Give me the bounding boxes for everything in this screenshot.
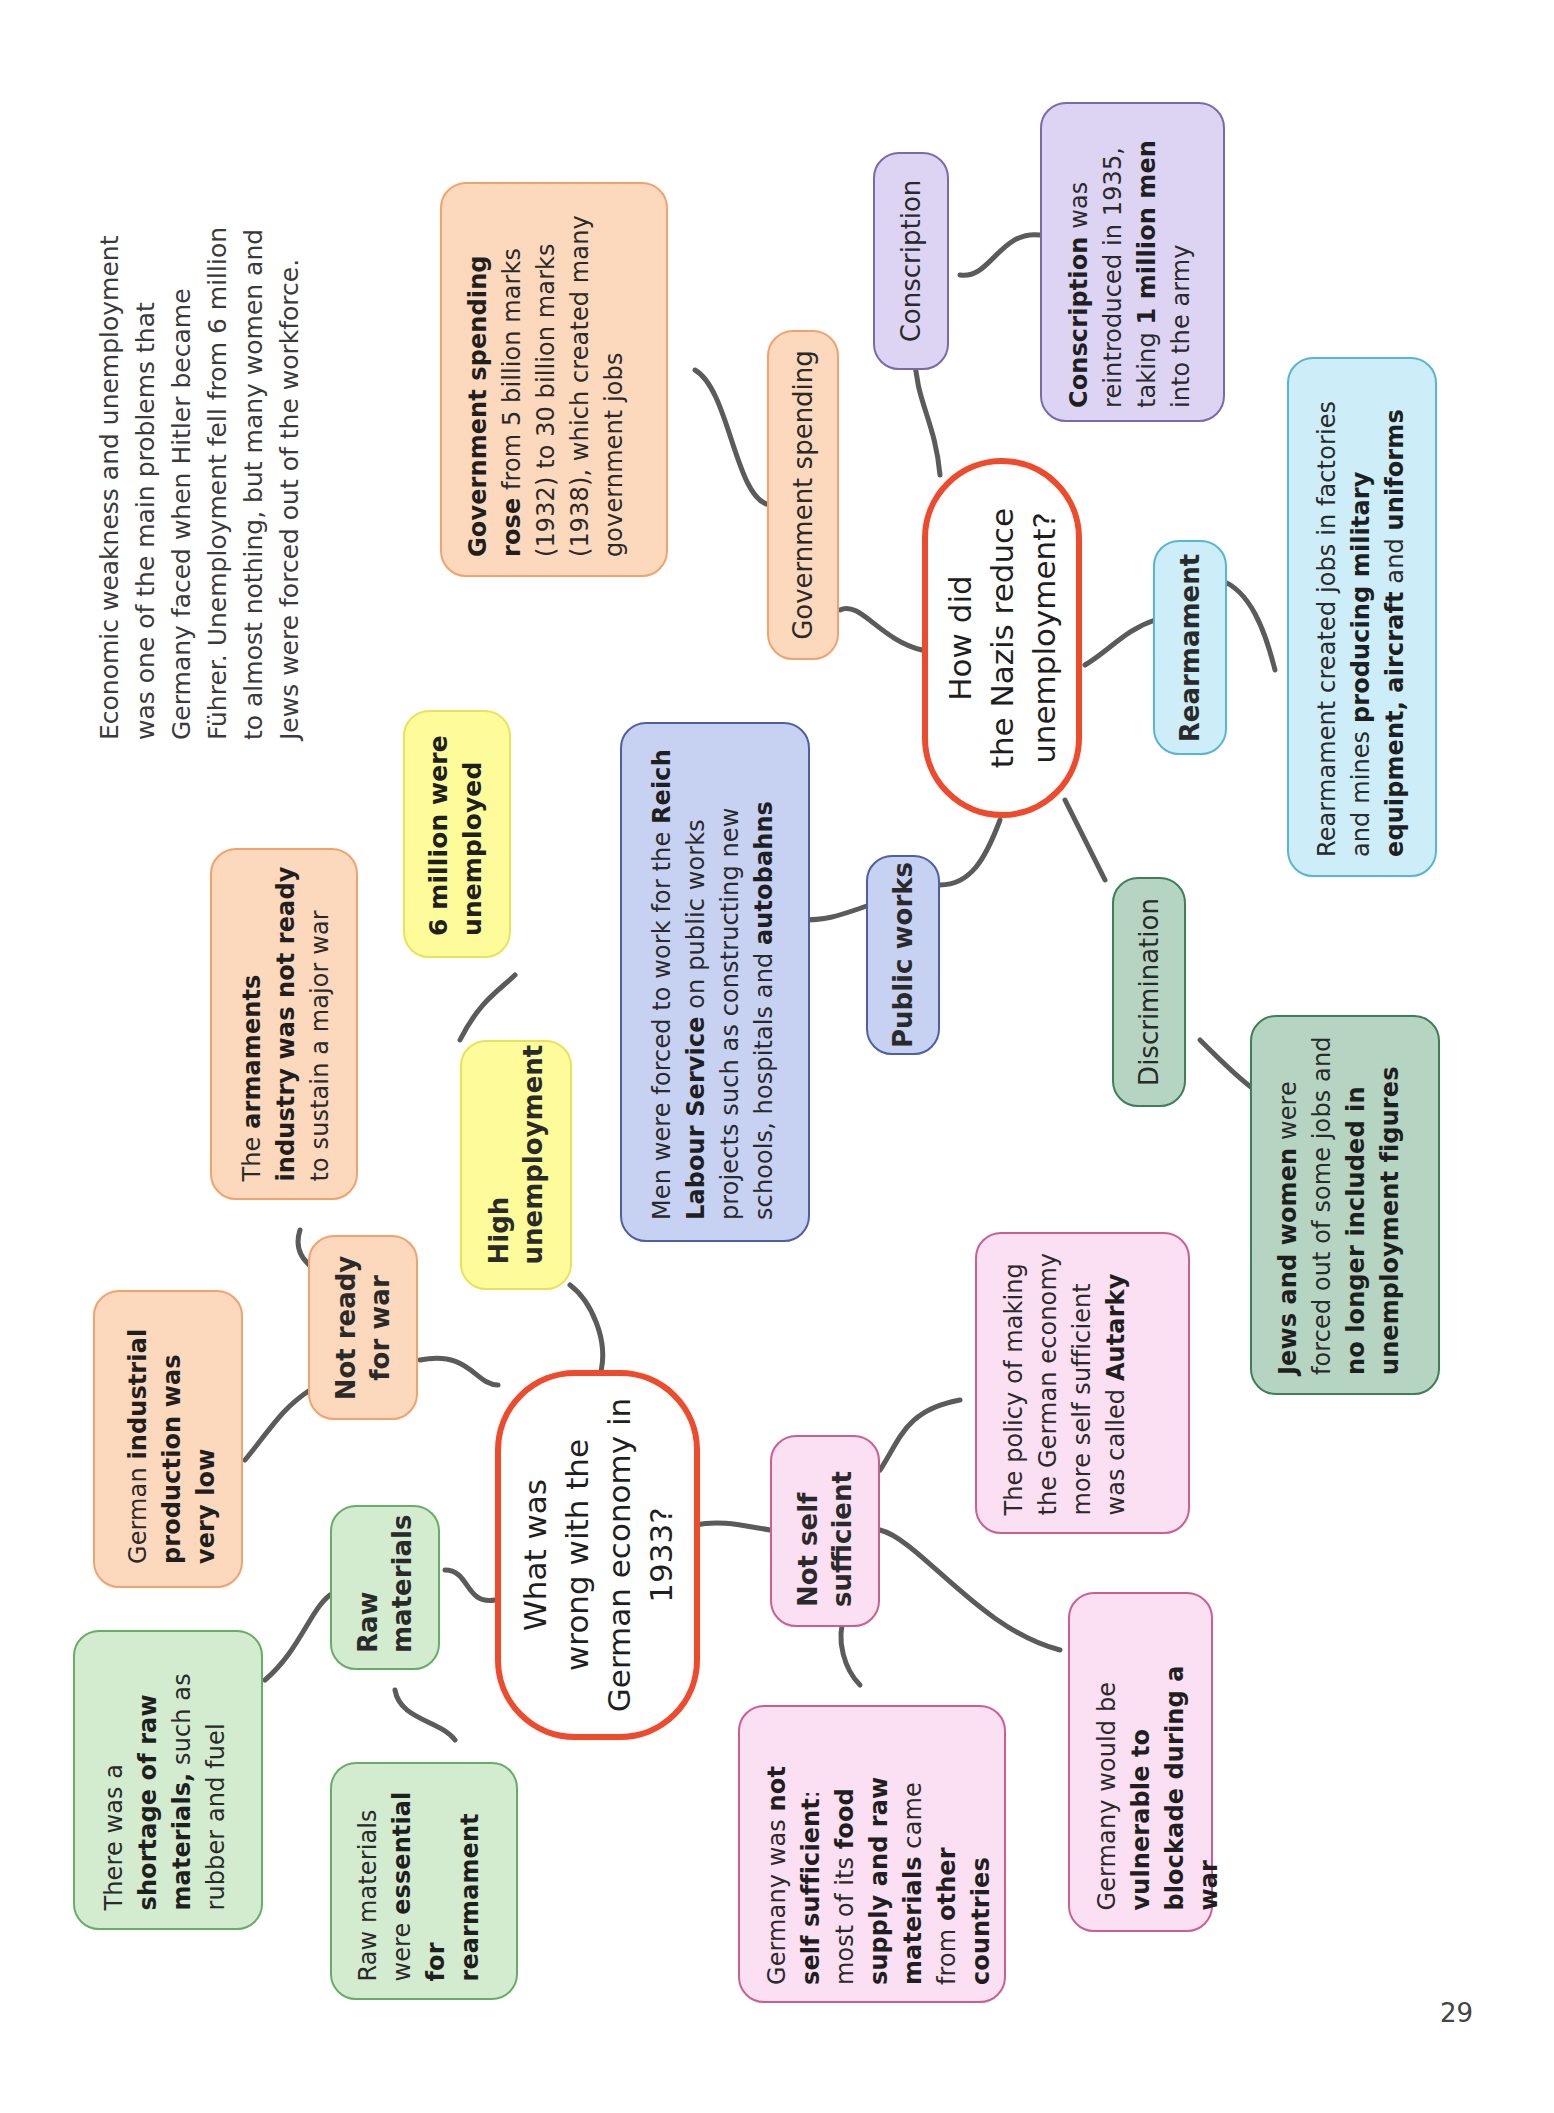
center-line: How did <box>939 575 981 700</box>
branch-label: Not ready for war <box>315 1243 411 1413</box>
branch-conscription: Conscription <box>873 152 949 370</box>
branch-not-ready-for-war: Not ready for war <box>308 1235 418 1420</box>
branch-label: Raw materials <box>337 1513 433 1663</box>
intro-line: Germany faced when Hitler became <box>164 288 200 740</box>
detail-text: The <box>238 1129 266 1182</box>
center-line: wrong with the <box>556 1439 598 1671</box>
branch-label: Public works <box>873 860 933 1050</box>
detail-text: Men were forced to work for the <box>648 824 676 1220</box>
branch-not-self-sufficient: Not self sufficient <box>770 1435 880 1627</box>
branch-label: High unemployment <box>467 1048 565 1283</box>
branch-government-spending: Government spending <box>767 330 839 660</box>
branch-public-works: Public works <box>866 855 940 1055</box>
detail-text: Germany would be <box>1093 1682 1121 1911</box>
detail-text: to sustain a major war <box>306 910 334 1181</box>
detail-text: Germany was <box>763 1811 791 1985</box>
center-line: unemployment? <box>1023 512 1065 764</box>
detail-imports: Germany was not self sufficient: most of… <box>738 1705 1006 2003</box>
bold-text: no longer included in unemployment figur… <box>1342 1066 1404 1375</box>
page-number: 29 <box>1440 1998 1473 2028</box>
intro-paragraph: Economic weakness and unemployment was o… <box>70 140 330 740</box>
detail-6-million: 6 million were unemployed <box>403 710 511 958</box>
detail-essential-rearmament: Raw materials were essential for rearmam… <box>330 1762 518 2000</box>
detail-discrimination: Jews and women were forced out of some j… <box>1250 1015 1440 1395</box>
intro-line: Führer. Unemployment fell from 6 million <box>200 227 236 740</box>
branch-label: Conscription <box>881 156 941 366</box>
center-line: 1933? <box>640 1507 682 1602</box>
central-topic-nazis: How did the Nazis reduce unemployment? <box>922 458 1082 818</box>
center-line: German economy in <box>598 1398 640 1712</box>
detail-rearmament: Rearmament created jobs in factories and… <box>1287 357 1437 877</box>
detail-shortage: There was a shortage of raw materials, s… <box>73 1630 263 1930</box>
detail-government-spending: Government spending rose from 5 billion … <box>440 182 668 577</box>
branch-label: Discrimination <box>1119 882 1179 1102</box>
intro-line: to almost nothing, but many women and <box>236 229 272 740</box>
bold-text: Jews and women <box>1274 1148 1302 1375</box>
detail-public-works: Men were forced to work for the Reich La… <box>620 722 810 1242</box>
bold-text: 6 million were unemployed <box>424 735 487 936</box>
detail-armaments: The armaments industry was not ready to … <box>210 848 358 1200</box>
detail-autarky: The policy of making the German economy … <box>975 1232 1190 1534</box>
branch-raw-materials: Raw materials <box>330 1505 440 1670</box>
central-topic-economy: What was wrong with the German economy i… <box>495 1370 700 1740</box>
branch-label: Government spending <box>773 335 833 655</box>
center-line: What was <box>514 1479 556 1631</box>
bold-text: 1 million men <box>1133 140 1161 325</box>
branch-label: Not self sufficient <box>777 1441 873 1621</box>
detail-industrial-production: German industrial production was very lo… <box>93 1290 243 1588</box>
branch-rearmament: Rearmament <box>1153 540 1227 755</box>
detail-text: There was a <box>100 1764 128 1911</box>
intro-line: Jews were forced out of the workforce. <box>272 259 308 740</box>
bold-text: uniforms <box>1381 409 1409 530</box>
intro-line: was one of the main problems that <box>128 302 164 740</box>
detail-blockade: Germany would be vulnerable to blockade … <box>1068 1592 1213 1932</box>
bold-text: autobahns <box>750 801 778 945</box>
detail-text: German <box>124 1460 152 1564</box>
branch-high-unemployment: High unemployment <box>460 1040 572 1290</box>
bold-text: Autarky <box>1102 1274 1130 1381</box>
branch-discrimination: Discrimination <box>1112 877 1186 1107</box>
detail-text: into the army <box>1167 244 1195 408</box>
intro-line: Economic weakness and unemployment <box>92 235 128 740</box>
bold-text: Conscription <box>1065 237 1093 408</box>
bold-text: vulnerable to blockade during a war <box>1127 1666 1223 1911</box>
detail-text: and <box>1381 530 1409 591</box>
center-line: the Nazis reduce <box>981 508 1023 768</box>
branch-label: Rearmament <box>1160 545 1220 750</box>
detail-conscription: Conscription was reintroduced in 1935, t… <box>1040 102 1225 422</box>
